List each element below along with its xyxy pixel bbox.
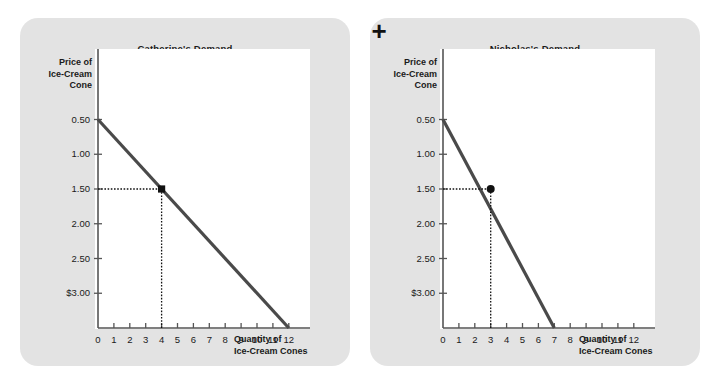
chart-vector-layer <box>0 0 715 381</box>
demand-curve-catherine <box>98 120 289 329</box>
figure-stage: Catherine's Demand Price of Ice-Cream Co… <box>0 0 715 381</box>
data-point-marker-nicholas <box>487 185 495 193</box>
demand-curve-nicholas <box>443 120 554 329</box>
data-point-marker-catherine <box>158 185 165 192</box>
